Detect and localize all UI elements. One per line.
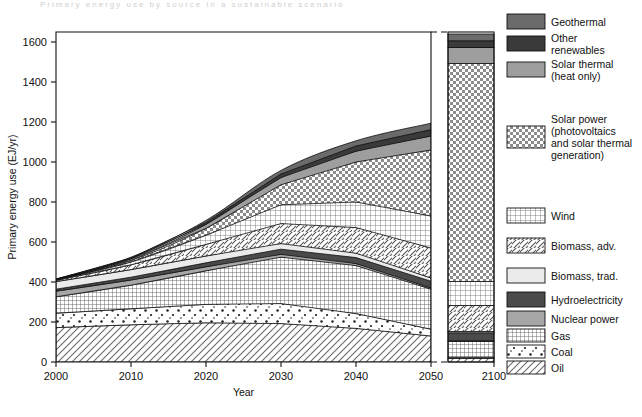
main-plot-panel xyxy=(56,123,431,362)
legend-label-coal: Coal xyxy=(551,346,573,358)
legend-label-other: Other xyxy=(551,32,578,44)
y-tick-label: 1200 xyxy=(23,116,47,128)
legend-label-biomass-adv: Biomass, adv. xyxy=(551,240,616,252)
legend-label-solar-thermal: Solar thermal xyxy=(551,58,613,70)
break-plot-panel-2100 xyxy=(448,34,494,362)
band-2100-solar-thermal-heat-only xyxy=(448,48,494,64)
legend-label-geothermal: Geothermal xyxy=(551,16,606,28)
figure-root: Primary energy use by source in a sustai… xyxy=(0,0,642,417)
energy-area-chart: 0200400600800100012001400160020002010202… xyxy=(0,0,642,417)
legend-label-biomass-trad: Biomass, trad. xyxy=(551,270,618,282)
y-tick-label: 0 xyxy=(41,356,47,368)
legend-swatch-other xyxy=(507,36,545,51)
band-2100-gas xyxy=(448,342,494,358)
y-tick-label: 1000 xyxy=(23,156,47,168)
legend-label-gas: Gas xyxy=(551,330,570,342)
legend-swatch-biomass-trad xyxy=(507,268,545,283)
band-2100-solar-power xyxy=(448,64,494,282)
legend-label-wind: Wind xyxy=(551,210,575,222)
legend-swatch-oil xyxy=(507,361,545,374)
y-tick-label: 800 xyxy=(29,196,47,208)
x-tick-label: 2020 xyxy=(194,370,218,382)
y-tick-label: 200 xyxy=(29,316,47,328)
legend-swatch-gas xyxy=(507,329,545,342)
y-axis-title: Primary energy use (EJ/yr) xyxy=(6,135,18,260)
band-2100-wind xyxy=(448,282,494,306)
band-2100-geothermal xyxy=(448,34,494,41)
legend-swatch-coal xyxy=(507,345,545,358)
x-tick-label: 2000 xyxy=(44,370,68,382)
y-tick-label: 400 xyxy=(29,276,47,288)
x-tick-label: 2010 xyxy=(119,370,143,382)
x-tick-label: 2050 xyxy=(419,370,443,382)
y-tick-label: 1400 xyxy=(23,76,47,88)
legend-label-oil: Oil xyxy=(551,362,564,374)
legend-label-solar-thermal: (heat only) xyxy=(551,70,601,82)
x-tick-label: 2030 xyxy=(269,370,293,382)
x-axis-title: Year xyxy=(233,386,255,398)
legend-label-nuclear-power: Nuclear power xyxy=(551,313,619,325)
faint-header-text: Primary energy use by source in a sustai… xyxy=(40,0,600,9)
legend-swatch-biomass-adv xyxy=(507,238,545,253)
legend-label-solar-power: Solar power xyxy=(551,113,608,125)
legend-swatch-solar-power xyxy=(507,126,545,148)
x-tick-label: 2040 xyxy=(344,370,368,382)
y-tick-label: 1600 xyxy=(23,36,47,48)
legend-swatch-geothermal xyxy=(507,14,545,29)
band-2100-hydroelectricity xyxy=(448,333,494,341)
legend-label-hydroelectricity: Hydroelectricity xyxy=(551,294,624,306)
legend-label-other: renewables xyxy=(551,44,605,56)
x-tick-label-2100: 2100 xyxy=(482,370,506,382)
legend-label-solar-power: generation) xyxy=(551,149,604,161)
y-tick-label: 600 xyxy=(29,236,47,248)
legend-swatch-hydroelectricity xyxy=(507,292,545,307)
band-2100-other-renewables xyxy=(448,41,494,48)
legend-swatch-nuclear-power xyxy=(507,311,545,326)
legend-swatch-wind xyxy=(507,208,545,223)
legend: GeothermalOtherrenewablesSolar thermal(h… xyxy=(507,14,632,374)
band-2100-biomass-adv xyxy=(448,306,494,332)
legend-label-solar-power: and solar thermal xyxy=(551,137,632,149)
legend-swatch-solar-thermal xyxy=(507,62,545,77)
legend-label-solar-power: (photovoltaics xyxy=(551,125,616,137)
